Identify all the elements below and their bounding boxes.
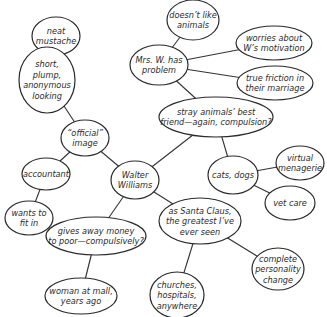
node-label-line: Williams <box>118 180 153 190</box>
node-label-line: the greatest I’ve <box>166 216 234 226</box>
node-label-line: gives away money <box>58 226 135 236</box>
node-official: “official”image <box>61 120 109 156</box>
node-worries: worries aboutW’s motivation <box>236 26 312 60</box>
node-label-line: wants to <box>11 208 46 218</box>
node-label-line: churches, <box>157 280 197 290</box>
node-label-line: vet care <box>273 198 307 208</box>
node-label-line: true friction in <box>246 73 304 83</box>
node-label-line: hospitals, <box>157 290 196 300</box>
node-label-line: friend—again, compulsion? <box>160 117 272 127</box>
node-short: short,plump,anonymouslooking <box>19 47 75 113</box>
node-santa: as Santa Claus,the greatest I’veever see… <box>159 198 241 244</box>
node-label-line: anywhere <box>157 301 197 311</box>
node-label-line: image <box>72 138 98 148</box>
node-mrsw: Mrs. W. hasproblem <box>130 45 188 85</box>
node-label-line: to poor—compulsively? <box>48 236 144 246</box>
node-walter: WalterWilliams <box>111 161 159 199</box>
node-friction: true friction intheir marriage <box>237 66 313 100</box>
node-mall: woman at mall,years ago <box>45 278 117 314</box>
node-dislike: doesn’t likeanimals <box>167 0 219 40</box>
node-label-line: problem <box>141 65 176 75</box>
node-label-line: change <box>263 275 293 285</box>
node-label-line: virtual <box>287 153 314 163</box>
node-label-line: accountant <box>23 169 70 179</box>
node-label-line: animals <box>177 20 210 30</box>
node-accountant: accountant <box>22 158 70 190</box>
node-label-line: doesn’t like <box>169 10 216 20</box>
node-label-line: neat <box>47 26 66 36</box>
node-label-line: ever seen <box>180 227 220 237</box>
node-personality: completepersonalitychange <box>252 248 304 290</box>
node-churches: churches,hospitals,anywhere <box>150 272 204 317</box>
node-label-line: mustache <box>36 36 76 46</box>
node-label-line: worries about <box>246 33 303 43</box>
node-label-line: their marriage <box>246 83 305 93</box>
node-label-line: anonymous <box>23 80 71 90</box>
node-label-line: W’s motivation <box>243 43 304 53</box>
node-label-line: years ago <box>60 296 101 306</box>
node-label-line: woman at mall, <box>49 286 112 296</box>
node-label-line: stray animals’ best <box>177 107 256 117</box>
node-label-line: Mrs. W. has <box>135 55 183 65</box>
node-label-line: plump, <box>32 70 61 80</box>
node-label-line: looking <box>32 91 62 101</box>
node-stray: stray animals’ bestfriend—again, compuls… <box>159 97 273 137</box>
nodes-layer: neatmustacheshort,plump,anonymouslooking… <box>5 0 324 317</box>
node-fitin: wants tofit in <box>5 201 53 235</box>
mind-map-diagram: neatmustacheshort,plump,anonymouslooking… <box>0 0 327 317</box>
node-label-line: complete <box>259 254 297 264</box>
node-label-line: “official” <box>67 128 104 138</box>
node-menagerie: virtualmenagerie <box>276 146 324 180</box>
node-label-line: fit in <box>20 218 39 228</box>
node-label-line: short, <box>35 59 59 69</box>
mind-map-canvas: neatmustacheshort,plump,anonymouslooking… <box>0 0 327 317</box>
node-label-line: Walter <box>122 170 149 180</box>
node-label-line: as Santa Claus, <box>168 206 231 216</box>
node-vetcare: vet care <box>265 186 315 220</box>
node-money: gives away moneyto poor—compulsively? <box>46 217 146 255</box>
node-cats: cats, dogs <box>208 156 258 194</box>
node-label-line: cats, dogs <box>212 170 255 180</box>
node-label-line: personality <box>254 264 301 274</box>
node-label-line: menagerie <box>278 163 322 173</box>
